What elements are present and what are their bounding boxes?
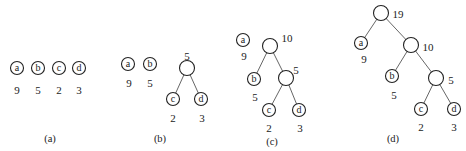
internal-node-10 [404,38,419,53]
internal-node-10 [263,39,278,54]
internal-node-19 [374,6,389,21]
leaf-node-weight: 5 [147,77,153,89]
internal-node-weight: 5 [293,64,299,76]
leaf-node-label: c [171,93,176,104]
leaf-node-weight: 9 [14,84,20,96]
leaf-node-weight: 5 [252,91,258,103]
leaf-node-weight: 2 [56,84,62,96]
leaf-node-label: b [148,58,153,69]
leaf-node-label: c [419,103,424,114]
leaf-node-weight: 2 [170,112,176,124]
leaf-node-label: b [252,73,257,84]
internal-node-weight: 5 [184,50,190,62]
leaf-node-weight: 9 [241,50,247,62]
panel-caption: (a) [44,133,56,145]
internal-node-5 [429,71,444,86]
panel-a: a9b5c2d3(a) [11,62,86,146]
huffman-diagram: a9b5c2d3(a)5a9b5c2d3(b)105a9b5c2d3(c)191… [0,0,466,151]
leaf-node-weight: 2 [418,121,424,133]
panel-d: 19105a9b5c2d3(d) [355,6,461,146]
leaf-node-label: a [241,34,246,45]
leaf-node-weight: 3 [297,122,303,134]
leaf-node-label: d [199,93,204,104]
panel-b: 5a9b5c2d3(b) [122,50,208,146]
leaf-node-weight: 3 [451,121,457,133]
leaf-node-label: b [390,70,395,81]
leaf-node-weight: 5 [391,89,397,101]
diagram-svg: a9b5c2d3(a)5a9b5c2d3(b)105a9b5c2d3(c)191… [0,0,466,151]
leaf-node-weight: 2 [266,122,272,134]
internal-node-weight: 10 [423,41,435,53]
internal-node-5 [279,71,294,86]
leaf-node-label: b [36,62,41,73]
leaf-node-label: c [267,104,272,115]
leaf-node-label: a [126,58,131,69]
internal-node-weight: 10 [282,32,294,44]
panel-c: 105a9b5c2d3(c) [237,32,306,149]
leaf-node-weight: 9 [361,53,367,65]
leaf-node-label: d [77,62,82,73]
leaf-node-weight: 3 [199,112,205,124]
leaf-node-label: a [15,62,20,73]
leaf-node-weight: 5 [35,84,41,96]
panel-caption: (b) [154,133,167,145]
leaf-node-label: d [452,103,457,114]
leaf-node-label: a [359,37,364,48]
internal-node-5 [180,61,195,76]
internal-node-weight: 5 [448,74,454,86]
leaf-node-label: c [57,62,62,73]
panel-caption: (d) [387,133,400,145]
panel-caption: (c) [266,136,278,148]
leaf-node-weight: 9 [126,77,132,89]
internal-node-weight: 19 [393,8,405,20]
leaf-node-weight: 3 [76,84,82,96]
leaf-node-label: d [297,104,302,115]
